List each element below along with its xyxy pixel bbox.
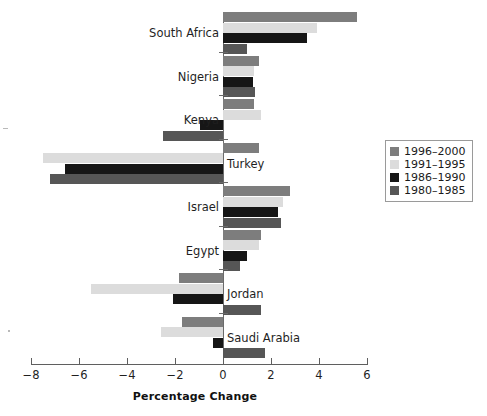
legend-item-label: 1986–1990	[404, 171, 466, 184]
plot-area	[31, 12, 367, 360]
x-tick	[127, 358, 128, 365]
bar	[50, 174, 223, 184]
bar	[223, 56, 259, 66]
x-tick-label: −8	[16, 368, 46, 382]
bar	[223, 197, 283, 207]
x-tick-label: 2	[256, 368, 286, 382]
legend-item[interactable]: 1996–2000	[390, 145, 466, 158]
legend-item[interactable]: 1986–1990	[390, 171, 466, 184]
legend: 1996–2000 1991–1995 1986–1990 1980–1985	[385, 140, 473, 202]
bar	[223, 251, 247, 261]
x-tick	[175, 358, 176, 365]
x-tick	[79, 358, 80, 365]
bar	[223, 305, 261, 315]
category-tick	[219, 226, 228, 227]
category-label: Turkey	[227, 158, 347, 170]
bar-chart: South AfricaNigeriaKenyaTurkeyIsraelEgyp…	[0, 0, 487, 416]
bar	[65, 164, 223, 174]
bar	[161, 327, 223, 337]
category-label: Jordan	[227, 288, 347, 300]
bar	[163, 131, 223, 141]
category-tick	[219, 182, 228, 183]
x-tick	[31, 358, 32, 365]
bar	[91, 284, 223, 294]
category-label: Nigeria	[0, 71, 219, 83]
bar	[182, 317, 223, 327]
legend-item-label: 1980–1985	[404, 184, 466, 197]
bar	[43, 153, 223, 163]
legend-item[interactable]: 1980–1985	[390, 184, 466, 197]
legend-item[interactable]: 1991–1995	[390, 158, 466, 171]
bar	[213, 338, 223, 348]
x-axis-title: Percentage Change	[0, 390, 390, 403]
legend-swatch-icon	[390, 147, 399, 156]
scan-speckle	[3, 128, 8, 129]
bar	[223, 143, 259, 153]
category-tick	[219, 269, 228, 270]
bar	[223, 207, 278, 217]
category-label: Egypt	[0, 245, 219, 257]
x-tick-label: −4	[112, 368, 142, 382]
legend-swatch-icon	[390, 186, 399, 195]
x-tick-label: 4	[304, 368, 334, 382]
category-tick	[219, 313, 228, 314]
x-tick	[319, 358, 320, 365]
category-label: Saudi Arabia	[227, 332, 347, 344]
legend-swatch-icon	[390, 160, 399, 169]
x-tick	[367, 358, 368, 365]
x-tick-label: −2	[160, 368, 190, 382]
bar	[223, 240, 259, 250]
category-label: Israel	[0, 201, 219, 213]
category-label: South Africa	[0, 27, 219, 39]
x-tick-label: 6	[352, 368, 382, 382]
legend-item-label: 1996–2000	[404, 145, 466, 158]
bar	[223, 23, 317, 33]
category-tick	[219, 139, 228, 140]
bar	[223, 33, 307, 43]
bar	[223, 218, 281, 228]
x-tick	[271, 358, 272, 365]
scan-speckle	[8, 330, 10, 332]
legend-item-label: 1991–1995	[404, 158, 466, 171]
bar	[223, 230, 261, 240]
bar	[173, 294, 223, 304]
category-label: Kenya	[0, 114, 219, 126]
x-tick	[223, 358, 224, 365]
x-tick-label: 0	[208, 368, 238, 382]
legend-swatch-icon	[390, 173, 399, 182]
x-axis-line	[31, 364, 367, 365]
bar	[223, 77, 253, 87]
category-tick	[219, 95, 228, 96]
bar	[223, 186, 290, 196]
bar	[223, 110, 261, 120]
bar	[179, 273, 223, 283]
bar	[223, 99, 254, 109]
bar	[223, 348, 265, 358]
bar	[223, 12, 357, 22]
x-tick-label: −6	[64, 368, 94, 382]
category-tick	[219, 52, 228, 53]
bar	[223, 66, 254, 76]
